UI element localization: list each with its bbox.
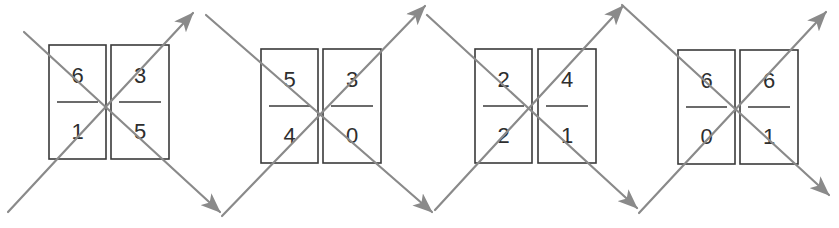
fraction-card: 60: [678, 50, 735, 164]
denominator: 0: [346, 123, 358, 148]
fraction-card: 30: [323, 49, 381, 163]
fraction-card: 61: [740, 50, 798, 164]
fraction-card-pair: 5430: [261, 49, 381, 163]
fraction-card: 35: [111, 45, 169, 159]
diagonal-arrow: [427, 15, 637, 208]
numerator: 6: [700, 68, 712, 93]
denominator: 5: [134, 119, 146, 144]
fraction-cards-diagram: 6135543022416061: [0, 0, 839, 228]
numerator: 3: [346, 67, 358, 92]
diagonal-arrow: [222, 6, 425, 216]
diagonal-arrow: [206, 15, 432, 212]
denominator: 4: [283, 123, 295, 148]
